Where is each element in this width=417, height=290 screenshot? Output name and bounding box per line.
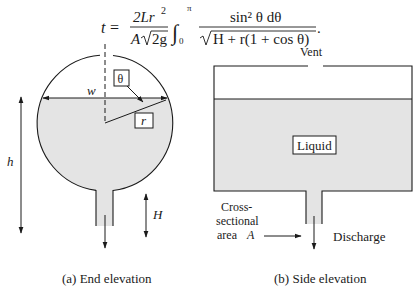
label-h: h [7, 154, 14, 169]
label-w: w [87, 83, 96, 98]
equation-lhs: t [101, 19, 106, 36]
equation-period: . [317, 20, 321, 36]
label-cross-line3: area [217, 228, 238, 242]
label-H: H [152, 207, 163, 222]
caption-side-elevation: (b) Side elevation [274, 271, 367, 286]
equation-equals: = [110, 19, 119, 36]
drain-time-equation: t = 2Lr 2 A 2g ∫ π 0 sin² θ dθ H + r(1 +… [101, 3, 321, 48]
integral-lower-limit: 0 [179, 36, 184, 46]
tank-drain-diagram: t = 2Lr 2 A 2g ∫ π 0 sin² θ dθ H + r(1 +… [0, 0, 417, 290]
equation-numerator-exp: 2 [161, 5, 166, 16]
label-theta: θ [118, 72, 124, 86]
label-discharge: Discharge [333, 229, 386, 244]
integrand-numerator: sin² θ dθ [230, 9, 281, 25]
label-vent: Vent [300, 45, 323, 59]
equation-denominator-root: 2g [152, 31, 168, 47]
equation-numerator: 2Lr [133, 9, 155, 25]
label-cross-line1: Cross- [221, 200, 252, 214]
end-elevation: w θ r h H (a) End elevation [7, 44, 180, 286]
caption-end-elevation: (a) End elevation [62, 271, 152, 286]
label-liquid: Liquid [297, 138, 332, 153]
integrand-denominator: H + r(1 + cos θ) [213, 31, 309, 48]
label-cross-A: A [246, 228, 255, 242]
integral-upper-limit: π [187, 3, 192, 13]
side-elevation: Vent Liquid Cross- sectional area A Disc… [214, 45, 412, 286]
label-cross-line2: sectional [216, 214, 259, 228]
equation-denominator-a: A [130, 31, 141, 47]
